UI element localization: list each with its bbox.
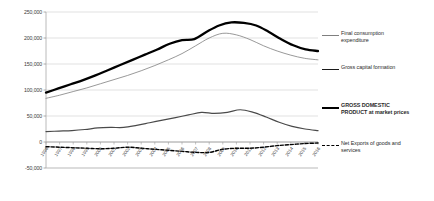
legend-item-label: Final consumptionexpenditure	[341, 30, 384, 44]
legend-line-swatch-icon	[322, 31, 339, 38]
series-line-0	[46, 33, 318, 98]
legend-item[interactable]: Gross capital formation	[322, 64, 434, 72]
legend-item-label: Net Exports of goods andservices	[341, 140, 401, 154]
y-axis-tick-label: 150,000	[2, 61, 42, 67]
series-line-1	[46, 110, 318, 132]
gridlines	[46, 12, 318, 168]
y-axis-tick-label: 0	[2, 139, 42, 145]
legend-label-line1: Gross capital formation	[341, 64, 395, 70]
legend-label-line2: services	[341, 147, 360, 153]
y-axis-tick-label: 200,000	[2, 35, 42, 41]
legend-line-swatch-icon	[322, 141, 339, 148]
y-axis-tick-label: -50,000	[2, 165, 42, 171]
data-series-lines	[46, 22, 318, 152]
y-axis-tick-label: 50,000	[2, 113, 42, 119]
legend-item[interactable]: Final consumptionexpenditure	[322, 30, 434, 44]
chart-legend: Final consumptionexpenditureGross capita…	[322, 14, 434, 164]
legend-item[interactable]: GROSS DOMESTICPRODUCT at market prices	[322, 102, 434, 116]
legend-item[interactable]: Net Exports of goods andservices	[322, 140, 434, 154]
legend-label-line1: Net Exports of goods and	[341, 140, 401, 146]
x-axis-tick-marks	[46, 142, 318, 145]
legend-item-label: Gross capital formation	[341, 64, 395, 71]
legend-label-line2: expenditure	[341, 37, 369, 43]
series-line-2	[46, 22, 318, 92]
legend-label-line2: PRODUCT at market prices	[341, 109, 409, 115]
legend-line-swatch-icon	[322, 65, 339, 72]
legend-label-line1: GROSS DOMESTIC	[341, 102, 390, 108]
y-axis-tick-label: 100,000	[2, 87, 42, 93]
legend-line-swatch-icon	[322, 103, 339, 110]
legend-item-label: GROSS DOMESTICPRODUCT at market prices	[341, 102, 409, 116]
y-axis-tick-label: 250,000	[2, 9, 42, 15]
chart-container: 250,000200,000150,000100,00050,0000-50,0…	[0, 0, 434, 201]
legend-label-line1: Final consumption	[341, 30, 384, 36]
